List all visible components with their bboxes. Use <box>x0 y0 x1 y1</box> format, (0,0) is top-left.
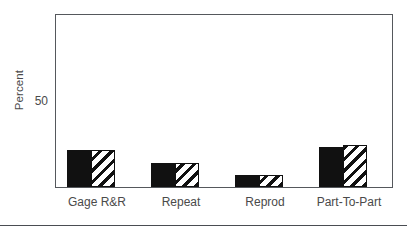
bar-solid <box>67 150 91 187</box>
bar-hatched <box>343 145 367 187</box>
gage-rr-bar-chart: Percent 50 Gage R&RRepeatReprodPart-To-P… <box>0 0 407 237</box>
x-axis-label: Gage R&R <box>55 194 139 210</box>
bar-solid <box>235 175 259 187</box>
x-axis-label: Part-To-Part <box>307 194 391 210</box>
bar-solid <box>319 147 343 187</box>
x-axis-label: Repeat <box>139 194 223 210</box>
bar-group <box>319 15 367 187</box>
bottom-separator-rule <box>0 225 407 226</box>
bars-layer <box>56 15 392 187</box>
y-axis-tick-label: 50 <box>14 95 48 107</box>
bar-hatched <box>259 175 283 187</box>
bar-group <box>235 15 283 187</box>
y-axis-title: Percent <box>13 53 25 127</box>
bar-hatched <box>91 150 115 187</box>
x-axis-label-group: Gage R&RRepeatReprodPart-To-Part <box>55 194 393 214</box>
x-axis-label: Reprod <box>223 194 307 210</box>
bar-solid <box>151 163 175 187</box>
bar-group <box>151 15 199 187</box>
bar-hatched <box>175 163 199 187</box>
bar-group <box>67 15 115 187</box>
